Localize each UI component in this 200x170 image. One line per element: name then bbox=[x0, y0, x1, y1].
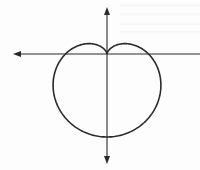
bleed-through-text bbox=[120, 4, 200, 34]
y-axis-bottom-arrowhead bbox=[104, 156, 110, 164]
x-axis-left-arrowhead bbox=[13, 51, 21, 57]
cardioid-diagram bbox=[0, 0, 200, 170]
y-axis-top-arrowhead bbox=[104, 7, 110, 15]
